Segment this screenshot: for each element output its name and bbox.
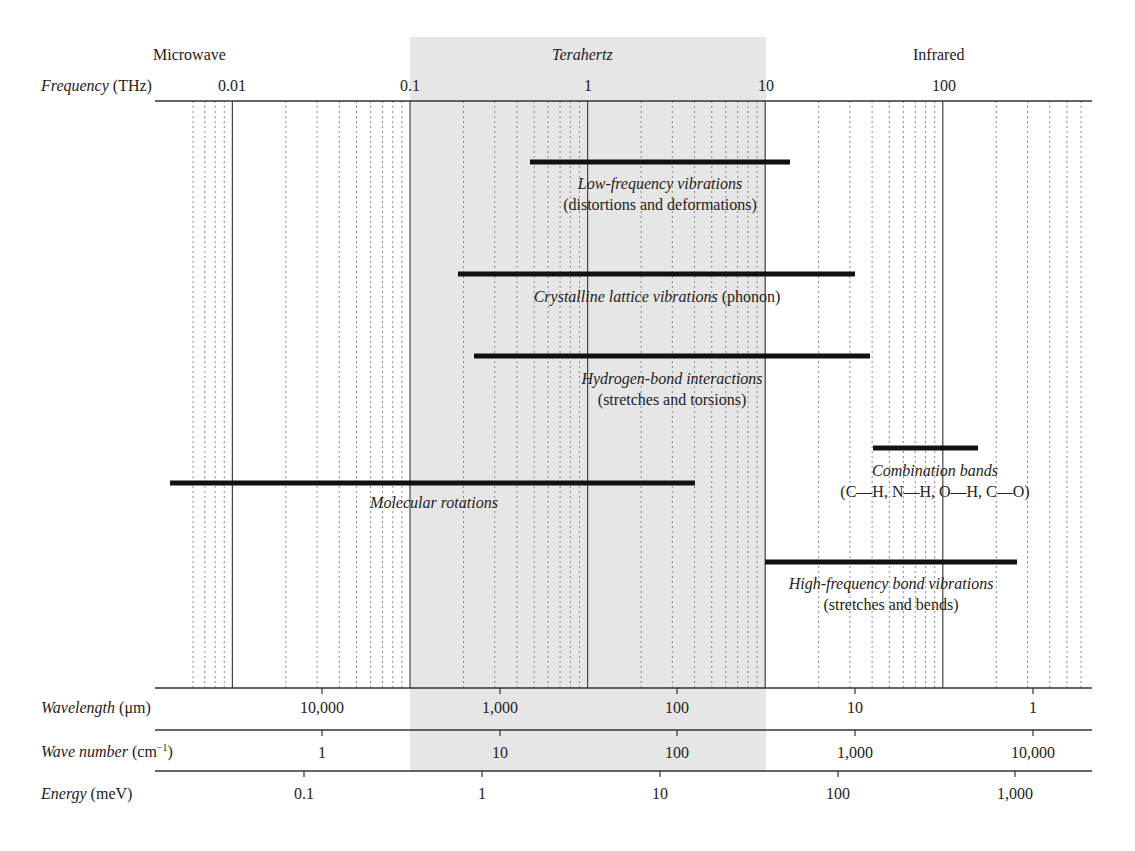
energy-tick: 1,000: [997, 786, 1033, 802]
band-title: Low-frequency vibrations: [563, 173, 757, 194]
band-title: High-frequency bond vibrations: [789, 573, 994, 594]
wavelength-tick: 100: [665, 700, 689, 716]
frequency-axis-name: Frequency: [41, 77, 109, 94]
energy-axis-title: Energy (meV): [41, 786, 132, 802]
band-title: Crystalline lattice vibrations: [534, 288, 718, 305]
band-detail: (distortions and deformations): [563, 194, 757, 215]
energy-axis-unit: (meV): [91, 785, 133, 802]
wavelength-tick: 1,000: [482, 700, 518, 716]
band-label-low-frequency: Low-frequency vibrations (distortions an…: [563, 173, 757, 215]
wave-number-axis-title: Wave number (cm−1): [41, 743, 173, 760]
energy-tick: 10: [652, 786, 668, 802]
band-title: Combination bands: [840, 460, 1029, 481]
wave-number-tick: 10,000: [1011, 745, 1055, 761]
band-detail: (phonon): [722, 288, 781, 305]
band-title: Molecular rotations: [370, 492, 498, 513]
band-label-combination: Combination bands (C—H, N—H, O—H, C—O): [840, 460, 1029, 502]
wavelength-tick: 10: [847, 700, 863, 716]
wave-number-tick: 10: [492, 745, 508, 761]
band-detail: (stretches and bends): [789, 594, 994, 615]
wavelength-axis-title: Wavelength (μm): [41, 700, 151, 716]
spectrum-chart: [0, 0, 1135, 851]
region-label-terahertz: Terahertz: [552, 47, 613, 63]
wavelength-axis-name: Wavelength: [41, 699, 115, 716]
band-title: Hydrogen-bond interactions: [581, 368, 762, 389]
energy-axis-name: Energy: [41, 785, 87, 802]
region-label-infrared: Infrared: [913, 47, 965, 63]
region-label-microwave: Microwave: [153, 47, 226, 63]
frequency-tick-10: 10: [758, 78, 774, 94]
band-label-hydrogen-bond: Hydrogen-bond interactions (stretches an…: [581, 368, 762, 410]
wave-number-axis-name: Wave number: [41, 743, 128, 760]
frequency-tick-0-1: 0.1: [400, 78, 420, 94]
energy-tick: 1: [478, 786, 486, 802]
frequency-tick-1: 1: [584, 78, 592, 94]
wave-number-tick: 1: [318, 745, 326, 761]
energy-tick: 100: [826, 786, 850, 802]
band-label-crystalline-lattice: Crystalline lattice vibrations (phonon): [534, 286, 781, 307]
wave-number-tick: 1,000: [837, 745, 873, 761]
frequency-tick-100: 100: [932, 78, 956, 94]
wave-number-tick: 100: [665, 745, 689, 761]
wavelength-tick: 1: [1029, 700, 1037, 716]
band-label-molecular-rotations: Molecular rotations: [370, 492, 498, 513]
frequency-axis-title: Frequency (THz): [41, 78, 152, 94]
frequency-axis-unit: (THz): [113, 77, 152, 94]
band-detail: (stretches and torsions): [581, 389, 762, 410]
wavelength-tick: 10,000: [300, 700, 344, 716]
wave-number-axis-unit: (cm−1): [132, 743, 173, 760]
band-label-high-frequency: High-frequency bond vibrations (stretche…: [789, 573, 994, 615]
frequency-tick-0-01: 0.01: [218, 78, 246, 94]
energy-tick: 0.1: [294, 786, 314, 802]
band-detail: (C—H, N—H, O—H, C—O): [840, 481, 1029, 502]
wavelength-axis-unit: (μm): [119, 699, 151, 716]
